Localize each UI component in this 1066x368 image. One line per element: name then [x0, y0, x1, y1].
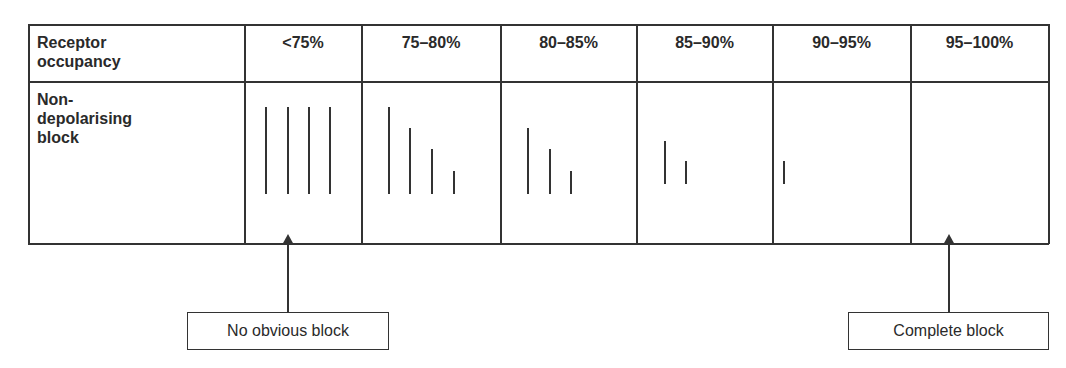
row-label-line: Non- [37, 90, 132, 109]
row-header-label: Receptor occupancy [37, 33, 121, 71]
row-label-line: depolarising [37, 109, 132, 128]
column-header-75-80: 75–80% [362, 33, 500, 52]
column-divider [244, 24, 246, 244]
column-divider [361, 24, 363, 244]
twitch-bar [431, 149, 433, 194]
twitch-bar [329, 107, 331, 194]
row-label-non-depolarising-block: Non- depolarising block [37, 90, 132, 147]
row-header-line: occupancy [37, 52, 121, 71]
column-divider [636, 24, 638, 244]
twitch-bar [287, 107, 289, 194]
twitch-bar [388, 107, 390, 194]
twitch-bar [308, 107, 310, 194]
table-left-border [28, 24, 30, 244]
label-complete-block: Complete block [848, 312, 1049, 350]
header-divider [28, 81, 1049, 83]
twitch-bar [409, 128, 411, 194]
arrow-shaft [287, 243, 289, 313]
twitch-bar [783, 161, 785, 184]
twitch-bar [570, 171, 572, 194]
table-top-border [28, 24, 1049, 26]
column-divider [772, 24, 774, 244]
column-divider [910, 24, 912, 244]
twitch-bar [685, 161, 687, 184]
table-bottom-border [28, 243, 1049, 245]
column-header-lt75: <75% [245, 33, 361, 52]
column-header-85-90: 85–90% [637, 33, 772, 52]
column-header-95-100: 95–100% [911, 33, 1048, 52]
arrow-shaft [948, 243, 950, 313]
twitch-bar [265, 107, 267, 194]
twitch-bar [664, 141, 666, 184]
twitch-bar [549, 149, 551, 194]
column-header-90-95: 90–95% [773, 33, 910, 52]
table-right-border [1048, 24, 1050, 244]
column-header-80-85: 80–85% [501, 33, 636, 52]
label-no-obvious-block: No obvious block [187, 312, 389, 350]
row-label-line: block [37, 128, 132, 147]
twitch-bar [453, 171, 455, 194]
twitch-bar [527, 128, 529, 194]
row-header-line: Receptor [37, 33, 121, 52]
column-divider [500, 24, 502, 244]
